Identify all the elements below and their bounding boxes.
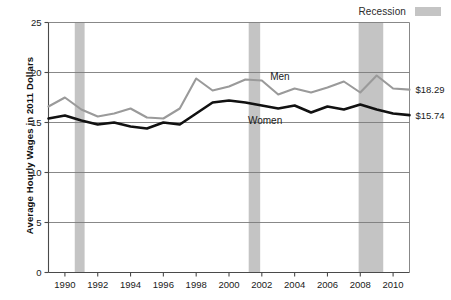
y-tick-label: 10 bbox=[31, 167, 42, 178]
series-line-men bbox=[49, 76, 410, 119]
x-tick-label: 2008 bbox=[350, 279, 371, 290]
x-tick-label: 1998 bbox=[186, 279, 207, 290]
y-tick-label: 20 bbox=[31, 67, 42, 78]
series-label-women: Women bbox=[248, 115, 282, 126]
x-tick-label: 2002 bbox=[251, 279, 272, 290]
y-tick-label: 0 bbox=[36, 267, 41, 278]
recession-band bbox=[359, 23, 384, 273]
x-tick-label: 2006 bbox=[317, 279, 338, 290]
series-line-women bbox=[49, 101, 410, 129]
y-tick-label: 5 bbox=[36, 217, 41, 228]
end-value-men: $18.29 bbox=[416, 84, 445, 95]
end-value-women: $15.74 bbox=[416, 110, 445, 121]
y-tick-label: 25 bbox=[31, 17, 42, 28]
recession-band bbox=[249, 23, 260, 273]
plot-area: 0510152025199019921994199619982000200220… bbox=[0, 0, 451, 300]
wage-line-chart: Recession Average Hourly Wages in 2011 D… bbox=[0, 0, 451, 300]
recession-band bbox=[75, 23, 85, 273]
x-tick-label: 1996 bbox=[153, 279, 174, 290]
series-label-men: Men bbox=[270, 71, 289, 82]
x-tick-label: 2010 bbox=[383, 279, 404, 290]
x-tick-label: 2000 bbox=[218, 279, 239, 290]
x-tick-label: 1994 bbox=[120, 279, 141, 290]
x-tick-label: 2004 bbox=[284, 279, 305, 290]
y-tick-label: 15 bbox=[31, 117, 42, 128]
x-tick-label: 1990 bbox=[54, 279, 75, 290]
x-tick-label: 1992 bbox=[87, 279, 108, 290]
